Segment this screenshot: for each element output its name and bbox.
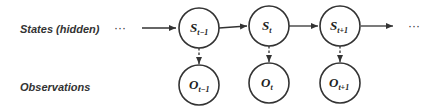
observation-node-tplus1: Ot+1 xyxy=(320,63,360,103)
edge-s-tminus1-to-s-t xyxy=(219,26,247,28)
hmm-diagram: States (hidden) Observations ··· ··· St−… xyxy=(0,0,438,106)
observation-node-tminus1: Ot−1 xyxy=(179,65,219,105)
states-row-label: States (hidden) xyxy=(20,23,100,35)
right-ellipsis: ··· xyxy=(408,19,420,33)
observation-node-t: Ot xyxy=(249,63,289,103)
state-node-t: St xyxy=(249,6,289,46)
state-node-tplus1: St+1 xyxy=(320,6,360,46)
observations-row-label: Observations xyxy=(20,81,90,93)
left-ellipsis: ··· xyxy=(114,21,126,35)
state-node-tminus1: St−1 xyxy=(179,8,219,48)
